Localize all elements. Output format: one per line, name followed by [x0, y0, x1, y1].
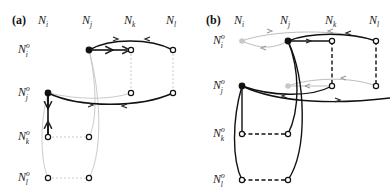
node-open [86, 175, 91, 180]
node-open [170, 47, 175, 52]
node-open [373, 83, 378, 88]
node-ghost [285, 83, 291, 89]
row-header-j: Noj [212, 77, 225, 95]
node-open [285, 131, 290, 136]
row-header-l: Nol [17, 169, 30, 187]
panel-a-dark-edges [48, 41, 173, 137]
row-header-l: Nol [212, 171, 225, 189]
col-header-k: Nk [123, 13, 136, 29]
col-header-j: Nj [81, 13, 92, 29]
node-open [285, 177, 290, 182]
panel-b-label: (b) [206, 13, 221, 27]
node-ghost [239, 38, 245, 44]
panel-b: (b) Ni Nj Nk Nl Noi Noj Nok Nol [206, 13, 390, 189]
node-filled [285, 38, 291, 44]
node-open [329, 83, 334, 88]
row-header-j: Noj [17, 84, 30, 102]
panel-b-row-headers: Noi Noj Nok Nol [212, 32, 225, 189]
col-header-k: Nk [324, 13, 337, 29]
row-header-k: Nok [17, 128, 30, 146]
node-filled [86, 47, 92, 53]
row-header-i: Noi [17, 41, 30, 59]
node-open [128, 90, 133, 95]
node-filled [45, 90, 51, 96]
node-open [329, 38, 334, 43]
node-filled [239, 83, 245, 89]
col-header-j: Nj [279, 13, 290, 29]
node-open [45, 134, 50, 139]
panel-b-dark-edges [235, 34, 391, 180]
node-open [86, 134, 91, 139]
col-header-l: Nl [165, 13, 176, 29]
node-open [239, 131, 244, 136]
node-open [239, 177, 244, 182]
node-open [373, 38, 378, 43]
diagram-canvas: (a) Ni Nj Nk Nl Noi Noj Nok Nol [0, 0, 392, 193]
panel-a-label: (a) [12, 13, 26, 27]
panel-b-column-headers: Ni Nj Nk Nl [233, 13, 379, 29]
col-header-i: Ni [37, 13, 48, 29]
col-header-i: Ni [233, 13, 244, 29]
panel-b-nodes [239, 38, 378, 182]
panel-a-column-headers: Ni Nj Nk Nl [37, 13, 176, 29]
row-header-i: Noi [212, 32, 225, 50]
panel-a-row-headers: Noi Noj Nok Nol [17, 41, 30, 187]
row-header-k: Nok [212, 125, 225, 143]
panel-a-nodes [45, 47, 175, 180]
col-header-l: Nl [368, 13, 379, 29]
node-open [45, 175, 50, 180]
panel-a-light-edges [42, 50, 173, 178]
node-open [170, 90, 175, 95]
panel-a: (a) Ni Nj Nk Nl Noi Noj Nok Nol [12, 13, 176, 187]
node-open [128, 47, 133, 52]
